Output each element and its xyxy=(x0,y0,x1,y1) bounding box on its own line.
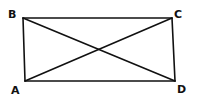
side-cd xyxy=(172,18,175,81)
vertex-label-b: B xyxy=(8,8,16,21)
vertex-label-d: D xyxy=(177,83,186,96)
vertex-label-c: C xyxy=(174,8,182,21)
rectangle-diagram: B C A D xyxy=(0,0,197,97)
edges-group xyxy=(23,18,175,81)
side-ab xyxy=(23,18,25,81)
diagram-canvas: B C A D xyxy=(0,0,197,97)
vertex-label-a: A xyxy=(11,84,20,97)
